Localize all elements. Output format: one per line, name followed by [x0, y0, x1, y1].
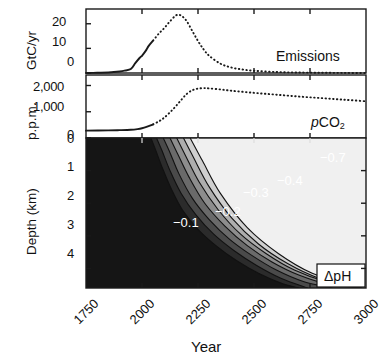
depth-ytick-3: 3 [67, 217, 74, 232]
pco2-ytick-1000: 1,000 [33, 99, 64, 114]
emissions-ytick-10: 10 [52, 34, 66, 49]
pco2-tag-sub: 2 [340, 121, 345, 131]
emissions-ylabel: GtC/yr [24, 31, 39, 70]
emissions-ytick-20: 20 [52, 14, 66, 29]
contour-label-02: −0.2 [215, 204, 241, 219]
contour-label-07: −0.7 [320, 150, 346, 165]
contour-label-01: −0.1 [173, 215, 199, 230]
depth-ytick-2: 2 [67, 188, 74, 203]
depth-ylabel: Depth (km) [24, 188, 39, 255]
depth-ytick-4: 4 [67, 246, 74, 261]
x-axis-title: Year [191, 338, 221, 355]
dph-panel-tag: ΔpH [324, 268, 351, 284]
depth-ytick-1: 1 [67, 159, 74, 174]
emissions-panel-tag: Emissions [276, 48, 340, 64]
pco2-panel-tag: pCO2 [311, 114, 345, 131]
pco2-ytick-2000: 2,000 [33, 79, 64, 94]
depth-ytick-0: 0 [67, 131, 74, 146]
pco2-tag-prefix: p [311, 114, 319, 130]
contour-label-04: −0.4 [277, 173, 303, 188]
contour-label-03: −0.3 [243, 185, 269, 200]
emissions-ytick-0: 0 [67, 54, 74, 69]
figure-root: GtC/yr 20 10 0 Emissions p.p.m. 2,000 1,… [0, 0, 382, 361]
pco2-tag-main: CO [319, 114, 340, 130]
